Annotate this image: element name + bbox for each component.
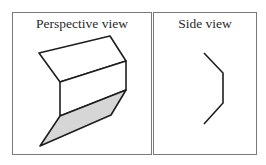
perspective-surface xyxy=(39,36,126,146)
diagram-canvas xyxy=(0,0,266,165)
side-profile-line xyxy=(204,53,223,124)
